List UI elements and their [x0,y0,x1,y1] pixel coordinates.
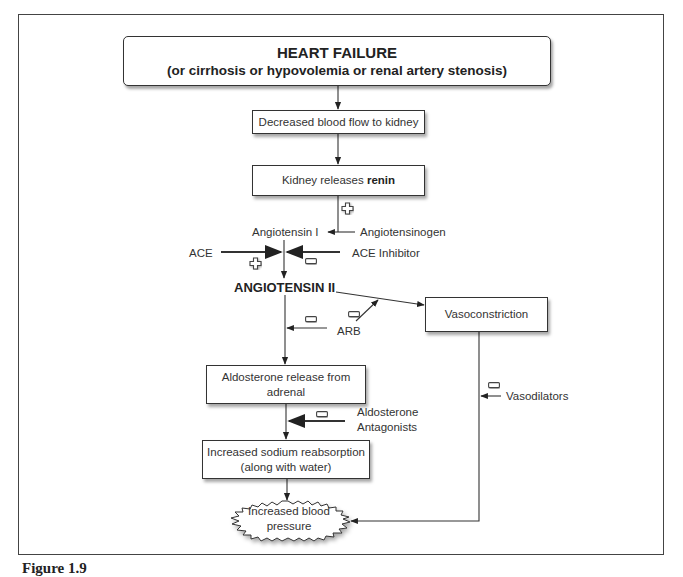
blood-pressure-label: Increased blood pressure [238,504,340,534]
arb-label: ARB [337,324,361,338]
blood-pressure-line2: pressure [238,519,340,534]
ace-inhibitor-label: ACE Inhibitor [352,246,420,260]
heart-failure-box: HEART FAILURE (or cirrhosis or hypovolem… [123,36,551,86]
minus-icon-aldosterone-antagonists [316,411,328,418]
vasodilators-label: Vasodilators [506,389,568,403]
heart-failure-subtitle: (or cirrhosis or hypovolemia or renal ar… [167,62,507,79]
figure-caption: Figure 1.9 [22,560,87,577]
vasoconstriction-box: Vasoconstriction [425,297,548,332]
angiotensin-ii-label: ANGIOTENSIN II [234,281,335,295]
decreased-blood-flow-box: Decreased blood flow to kidney [252,110,425,134]
minus-icon-ace-inhibitor [305,258,317,265]
kidney-renin-prefix: Kidney releases [282,173,367,188]
arrow-ang2-to-vasoconstriction [336,292,424,305]
plus-icon-ace [249,257,262,270]
sodium-line2: (along with water) [241,460,332,475]
aldosterone-antagonists-line1: Aldosterone [357,405,418,419]
angiotensin-i-label: Angiotensin I [252,225,319,239]
vasoconstriction-label: Vasoconstriction [445,307,529,322]
aldosterone-line2: adrenal [267,385,305,400]
minus-icon-vasodilators [488,382,500,389]
decreased-blood-flow-label: Decreased blood flow to kidney [259,115,419,130]
plus-icon-renin [341,202,354,215]
blood-pressure-line1: Increased blood [238,504,340,519]
sodium-reabsorption-box: Increased sodium reabsorption (along wit… [202,440,370,479]
aldosterone-antagonists-line2: Antagonists [357,420,417,434]
sodium-line1: Increased sodium reabsorption [207,445,365,460]
heart-failure-title: HEART FAILURE [277,43,397,62]
kidney-renin-box: Kidney releases renin [252,165,425,196]
aldosterone-box: Aldosterone release from adrenal [206,365,366,404]
angiotensinogen-label: Angiotensinogen [360,225,446,239]
renin-label: renin [367,173,395,188]
ace-label: ACE [189,246,213,260]
minus-icon-arb-vasoconstriction [348,311,360,318]
minus-icon-arb-aldosterone [305,316,317,323]
aldosterone-line1: Aldosterone release from [222,370,350,385]
